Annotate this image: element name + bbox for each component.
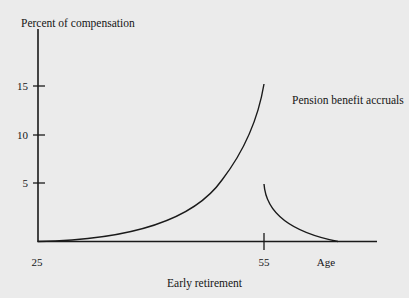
accrual-curve-rising xyxy=(38,84,264,242)
y-tick-label-5: 5 xyxy=(8,177,28,189)
chart: Percent of compensation 15 10 5 25 55 Ag… xyxy=(0,0,409,298)
early-retirement-annotation: Early retirement xyxy=(167,277,242,289)
y-axis-label: Percent of compensation xyxy=(21,17,135,29)
y-tick-label-15: 15 xyxy=(8,80,28,92)
accrual-curve-falling xyxy=(264,184,338,242)
x-axis-label-age: Age xyxy=(317,256,335,268)
series-label: Pension benefit accruals xyxy=(292,94,404,106)
plot-area xyxy=(0,0,409,298)
x-tick-label-55: 55 xyxy=(259,256,270,268)
x-tick-label-25: 25 xyxy=(32,256,43,268)
y-tick-label-10: 10 xyxy=(8,129,28,141)
